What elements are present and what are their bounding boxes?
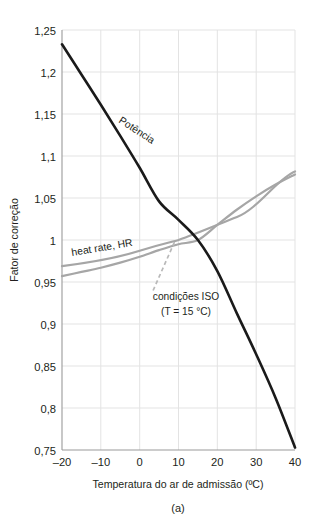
iso-annotation-line2: (T = 15 °C) — [161, 306, 211, 317]
x-tick-label: –10 — [91, 456, 110, 468]
x-tick-label: –20 — [53, 456, 72, 468]
x-tick-labels: –20 –10 0 10 20 30 40 — [53, 456, 302, 468]
y-tick-label: 1,1 — [40, 151, 56, 163]
y-axis-title: Fator de correção — [8, 198, 20, 282]
figure-caption: (a) — [171, 502, 184, 514]
y-tick-label: 1,25 — [34, 25, 56, 37]
chart-svg: 1,25 1,2 1,15 1,1 1,05 1 0,95 0,9 0,85 0… — [0, 0, 322, 523]
y-tick-label: 1 — [50, 235, 56, 247]
y-tick-label: 0,95 — [34, 277, 56, 289]
x-tick-label: 20 — [211, 456, 223, 468]
x-tick-label: 30 — [250, 456, 262, 468]
x-tick-label: 0 — [137, 456, 143, 468]
y-tick-label: 0,8 — [40, 403, 56, 415]
y-tick-label: 0,9 — [40, 319, 56, 331]
y-tick-label: 0,75 — [34, 445, 56, 457]
x-axis-title: Temperatura do ar de admissão (ºC) — [92, 478, 263, 490]
iso-annotation-line1: condições ISO — [153, 291, 219, 302]
y-tick-labels: 1,25 1,2 1,15 1,1 1,05 1 0,95 0,9 0,85 0… — [34, 25, 56, 457]
y-tick-label: 0,85 — [34, 361, 56, 373]
figure-container: 1,25 1,2 1,15 1,1 1,05 1 0,95 0,9 0,85 0… — [0, 0, 322, 523]
x-tick-label: 40 — [289, 456, 301, 468]
y-tick-label: 1,15 — [34, 109, 56, 121]
x-tick-label: 10 — [172, 456, 184, 468]
y-tick-label: 1,2 — [40, 67, 56, 79]
y-tick-label: 1,05 — [34, 193, 56, 205]
